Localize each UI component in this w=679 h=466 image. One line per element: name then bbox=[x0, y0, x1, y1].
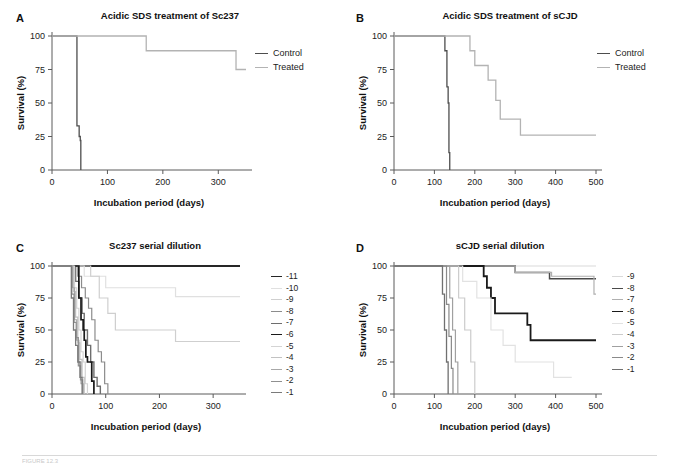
svg-text:0: 0 bbox=[391, 177, 396, 187]
legend-line-icon bbox=[271, 276, 282, 277]
svg-text:200: 200 bbox=[152, 401, 167, 411]
legend-line-icon bbox=[271, 299, 282, 300]
legend-item[interactable]: -4 bbox=[612, 329, 635, 341]
svg-text:100: 100 bbox=[30, 31, 45, 41]
panel-c-title: Sc237 serial dilution bbox=[40, 240, 270, 251]
svg-text:400: 400 bbox=[548, 177, 563, 187]
svg-text:50: 50 bbox=[377, 325, 387, 335]
panel-d-svg: 02550751000100200300400500Incubation per… bbox=[340, 252, 608, 448]
panel-a: A Acidic SDS treatment of Sc237 02550751… bbox=[0, 0, 340, 232]
panel-b-plot: 02550751000100200300400500Incubation per… bbox=[340, 22, 608, 222]
svg-text:100: 100 bbox=[98, 401, 113, 411]
legend-item[interactable]: -5 bbox=[271, 341, 298, 353]
legend-item[interactable]: -10 bbox=[271, 283, 298, 295]
panel-b: B Acidic SDS treatment of sCJD 025507510… bbox=[340, 0, 679, 232]
svg-text:100: 100 bbox=[427, 401, 442, 411]
legend-line-icon bbox=[271, 288, 282, 289]
legend-line-icon bbox=[612, 369, 623, 370]
legend-item[interactable]: -7 bbox=[271, 317, 298, 329]
svg-text:75: 75 bbox=[377, 293, 387, 303]
legend-item[interactable]: Treated bbox=[255, 60, 304, 74]
svg-text:0: 0 bbox=[391, 401, 396, 411]
legend-item[interactable]: -8 bbox=[612, 283, 635, 295]
legend-item-label: Treated bbox=[615, 60, 646, 74]
legend-item-label: -2 bbox=[627, 352, 635, 364]
legend-line-icon bbox=[271, 357, 282, 358]
legend-item-label: -1 bbox=[627, 364, 635, 376]
svg-text:25: 25 bbox=[377, 357, 387, 367]
legend-item-label: -4 bbox=[286, 352, 294, 364]
legend-item-label: -2 bbox=[286, 375, 294, 387]
legend-item[interactable]: -2 bbox=[612, 352, 635, 364]
legend-item-label: -6 bbox=[286, 329, 294, 341]
panel-c-plot: 02550751000100200300Incubation period (d… bbox=[0, 252, 250, 448]
legend-item[interactable]: Treated bbox=[597, 60, 646, 74]
svg-text:300: 300 bbox=[508, 401, 523, 411]
legend-item-label: -8 bbox=[627, 283, 635, 295]
legend-item-label: Control bbox=[273, 46, 302, 60]
legend-item-label: -3 bbox=[627, 341, 635, 353]
legend-line-icon bbox=[612, 288, 623, 289]
svg-text:Incubation period (days): Incubation period (days) bbox=[440, 197, 550, 208]
panel-c-svg: 02550751000100200300Incubation period (d… bbox=[0, 252, 250, 448]
panel-c-legend: -11-10-9-8-7-6-5-4-3-2-1 bbox=[271, 271, 298, 399]
svg-text:400: 400 bbox=[548, 401, 563, 411]
legend-item-label: -10 bbox=[286, 283, 298, 295]
legend-item[interactable]: -3 bbox=[612, 341, 635, 353]
legend-line-icon bbox=[612, 276, 623, 277]
svg-text:300: 300 bbox=[508, 177, 523, 187]
svg-text:0: 0 bbox=[49, 401, 54, 411]
svg-text:Incubation period (days): Incubation period (days) bbox=[440, 421, 550, 432]
figure-container: A Acidic SDS treatment of Sc237 02550751… bbox=[0, 0, 679, 466]
svg-text:0: 0 bbox=[382, 165, 387, 175]
svg-text:75: 75 bbox=[377, 65, 387, 75]
legend-item[interactable]: -5 bbox=[612, 317, 635, 329]
legend-item-label: Control bbox=[615, 46, 644, 60]
legend-item[interactable]: Control bbox=[255, 46, 304, 60]
legend-line-icon bbox=[255, 53, 268, 54]
svg-text:25: 25 bbox=[377, 132, 387, 142]
caption-divider bbox=[22, 455, 657, 456]
svg-text:300: 300 bbox=[206, 401, 221, 411]
legend-item-label: -9 bbox=[286, 294, 294, 306]
svg-text:500: 500 bbox=[588, 401, 603, 411]
legend-line-icon bbox=[271, 392, 282, 393]
svg-text:0: 0 bbox=[382, 389, 387, 399]
panel-b-title: Acidic SDS treatment of sCJD bbox=[380, 10, 640, 21]
legend-item[interactable]: -2 bbox=[271, 375, 298, 387]
legend-item[interactable]: Control bbox=[597, 46, 646, 60]
svg-text:0: 0 bbox=[40, 389, 45, 399]
legend-item[interactable]: -6 bbox=[612, 306, 635, 318]
legend-item[interactable]: -1 bbox=[612, 364, 635, 376]
legend-item[interactable]: -7 bbox=[612, 294, 635, 306]
figure-caption: FIGURE 12.3 bbox=[22, 458, 662, 464]
legend-item[interactable]: -9 bbox=[271, 294, 298, 306]
legend-line-icon bbox=[612, 299, 623, 300]
svg-text:75: 75 bbox=[35, 293, 45, 303]
svg-text:500: 500 bbox=[588, 177, 603, 187]
legend-item[interactable]: -1 bbox=[271, 387, 298, 399]
svg-text:Incubation period (days): Incubation period (days) bbox=[91, 421, 201, 432]
svg-text:50: 50 bbox=[377, 98, 387, 108]
panel-d: D sCJD serial dilution 02550751000100200… bbox=[340, 232, 679, 454]
svg-text:Survival (%): Survival (%) bbox=[15, 76, 26, 130]
legend-line-icon bbox=[271, 346, 282, 347]
legend-line-icon bbox=[271, 381, 282, 382]
legend-item[interactable]: -8 bbox=[271, 306, 298, 318]
panel-b-svg: 02550751000100200300400500Incubation per… bbox=[340, 22, 608, 222]
legend-line-icon bbox=[255, 67, 268, 68]
legend-item[interactable]: -11 bbox=[271, 271, 298, 283]
legend-item[interactable]: -4 bbox=[271, 352, 298, 364]
legend-item-label: -8 bbox=[286, 306, 294, 318]
svg-text:Incubation period (days): Incubation period (days) bbox=[94, 197, 204, 208]
panel-d-plot: 02550751000100200300400500Incubation per… bbox=[340, 252, 608, 448]
legend-item[interactable]: -9 bbox=[612, 271, 635, 283]
svg-text:300: 300 bbox=[211, 177, 226, 187]
legend-item[interactable]: -6 bbox=[271, 329, 298, 341]
svg-text:Survival (%): Survival (%) bbox=[357, 303, 368, 357]
svg-text:100: 100 bbox=[30, 261, 45, 271]
svg-text:100: 100 bbox=[427, 177, 442, 187]
legend-line-icon bbox=[612, 357, 623, 358]
legend-item[interactable]: -3 bbox=[271, 364, 298, 376]
panel-a-svg: 02550751000100200300Incubation period (d… bbox=[0, 22, 260, 222]
